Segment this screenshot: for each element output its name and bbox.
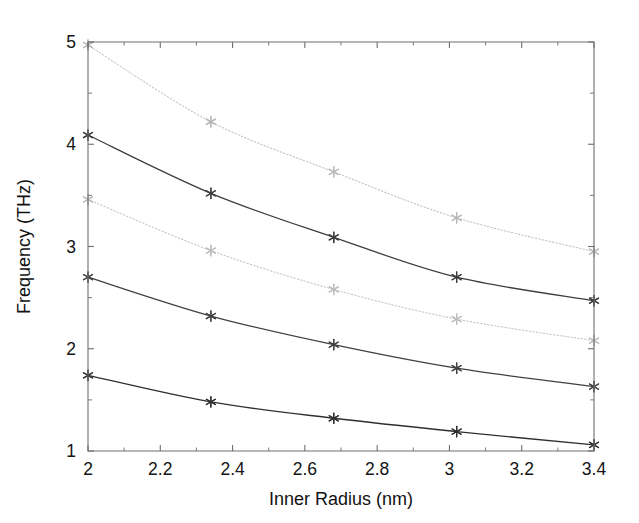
x-tick-label: 3.2 <box>510 459 534 479</box>
frequency-vs-inner-radius-chart: 22.22.42.62.833.23.412345 Inner Radius (… <box>0 0 639 523</box>
y-tick-label: 2 <box>66 339 76 359</box>
x-tick-label: 2.6 <box>293 459 317 479</box>
chart-background <box>0 0 639 523</box>
x-tick-label: 2.8 <box>365 459 389 479</box>
chart-canvas: 22.22.42.62.833.23.412345 Inner Radius (… <box>0 0 639 523</box>
y-tick-label: 3 <box>66 237 76 257</box>
x-tick-label: 2.4 <box>220 459 245 479</box>
x-tick-label: 3 <box>445 459 455 479</box>
x-tick-label: 3.4 <box>582 459 607 479</box>
y-tick-label: 5 <box>66 32 76 52</box>
x-tick-label: 2 <box>83 459 93 479</box>
y-tick-label: 1 <box>66 441 76 461</box>
x-axis-label: Inner Radius (nm) <box>269 489 413 509</box>
x-tick-label: 2.2 <box>148 459 172 479</box>
y-tick-label: 4 <box>66 134 76 154</box>
y-axis-label: Frequency (THz) <box>14 179 34 314</box>
